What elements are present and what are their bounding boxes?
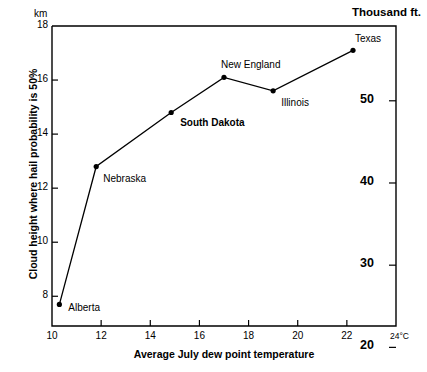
left-tick-label: 14 [26, 127, 48, 138]
data-point-marker [221, 75, 226, 80]
x-tick-label: 12 [86, 330, 116, 341]
x-axis-ticks [101, 320, 347, 326]
data-point-marker [350, 48, 355, 53]
x-tick-label: 14 [135, 330, 165, 341]
data-point-marker [271, 88, 276, 93]
x-tick-label: 16 [184, 330, 214, 341]
right-axis-ticks [389, 101, 396, 348]
right-tick-label: 20 [360, 338, 390, 352]
data-point-marker [169, 110, 174, 115]
x-tick-label: 20 [283, 330, 313, 341]
x-axis-max-unit-label: 24°C [390, 331, 424, 341]
data-point-markers [57, 48, 356, 307]
data-point-label: Alberta [68, 302, 100, 313]
data-point-label: New England [221, 59, 280, 70]
data-point-label: Illinois [281, 97, 309, 108]
left-tick-label: 8 [26, 289, 48, 300]
data-point-marker [57, 302, 62, 307]
x-tick-label: 18 [234, 330, 264, 341]
left-tick-label: 12 [26, 181, 48, 192]
right-tick-label: 30 [360, 256, 390, 270]
left-tick-label: 10 [26, 235, 48, 246]
data-point-label: Texas [355, 33, 381, 44]
left-tick-label: 16 [26, 73, 48, 84]
x-tick-label: 22 [332, 330, 362, 341]
data-point-marker [94, 164, 99, 169]
x-tick-label: 10 [37, 330, 67, 341]
data-point-label: Nebraska [103, 173, 146, 184]
left-axis-ticks [52, 80, 58, 296]
hail-cloud-height-chart: km Thousand ft. Cloud height where hail … [0, 0, 427, 372]
right-tick-label: 40 [360, 174, 390, 188]
data-point-label: South Dakota [180, 117, 244, 128]
left-tick-label: 18 [26, 19, 48, 30]
right-tick-label: 50 [360, 92, 390, 106]
